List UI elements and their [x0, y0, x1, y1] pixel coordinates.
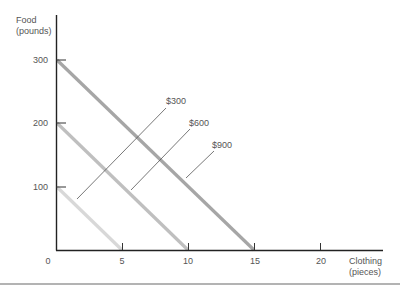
leader-line-900 — [186, 151, 214, 178]
budget-line-300 — [57, 187, 122, 250]
budget-line-900 — [57, 60, 254, 250]
budget-line-600 — [57, 123, 188, 250]
y-tick-label-200: 200 — [33, 118, 48, 128]
x-axis-title-line1: Clothing — [349, 256, 382, 266]
x-axis-title-line2: (pieces) — [349, 267, 381, 277]
y-axis-title-line2: (pounds) — [16, 26, 52, 36]
annotation-900: $900 — [212, 140, 232, 150]
y-axis-title-line1: Food — [16, 15, 37, 25]
annotation-300: $300 — [166, 96, 186, 106]
x-tick-label-10: 10 — [183, 256, 193, 266]
budget-lines-chart: Food (pounds) 300 200 100 0 5 10 15 20 C… — [0, 0, 400, 296]
x-tick-label-5: 5 — [119, 256, 124, 266]
y-tick-label-300: 300 — [33, 55, 48, 65]
x-tick-label-0: 0 — [45, 256, 50, 266]
y-tick-label-100: 100 — [33, 182, 48, 192]
x-tick-label-15: 15 — [250, 256, 260, 266]
x-tick-label-20: 20 — [316, 256, 326, 266]
annotation-600: $600 — [189, 118, 209, 128]
